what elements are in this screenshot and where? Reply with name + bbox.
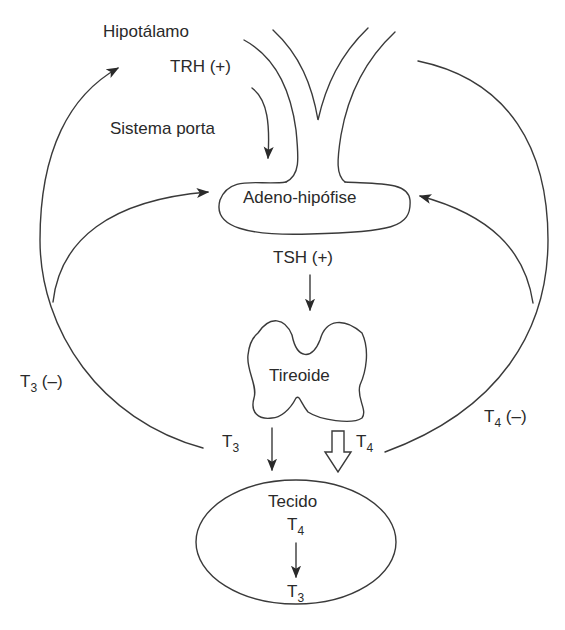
t4-output-label: T4 bbox=[356, 432, 373, 455]
tissue-t3-label: T3 bbox=[287, 582, 304, 605]
t3-output-label: T3 bbox=[222, 432, 239, 455]
thyroid-axis-diagram: Hipotálamo TRH (+) Sistema porta Adeno-h… bbox=[0, 0, 565, 630]
t4-feedback-label: T4 (–) bbox=[484, 407, 527, 430]
trh-arrow bbox=[252, 88, 269, 158]
adenohypophysis-label: Adeno-hipófise bbox=[243, 188, 356, 207]
trh-label: TRH (+) bbox=[170, 57, 231, 76]
t3-feedback-label: T3 (–) bbox=[20, 372, 63, 395]
t4-feedback-pituitary-arrow bbox=[420, 196, 533, 303]
pituitary-stalk-shape bbox=[244, 28, 395, 182]
tsh-label: TSH (+) bbox=[273, 248, 333, 267]
t4-output-hollow-arrow bbox=[325, 431, 351, 472]
thyroid-label: Tireoide bbox=[269, 366, 330, 385]
portal-system-label: Sistema porta bbox=[110, 119, 215, 138]
tissue-label: Tecido bbox=[268, 492, 317, 511]
t3-feedback-pituitary-arrow bbox=[53, 192, 208, 302]
t4-feedback-hypothalamus-line bbox=[385, 61, 548, 452]
hypothalamus-label: Hipotálamo bbox=[103, 22, 189, 41]
tissue-t4-label: T4 bbox=[287, 515, 304, 538]
